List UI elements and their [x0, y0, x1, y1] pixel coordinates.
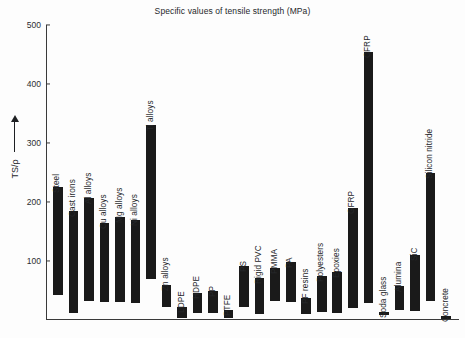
bar-mg-alloys — [115, 217, 125, 303]
y-axis-label-group: TS/ρ — [6, 120, 24, 230]
bar-label-ps: PS — [239, 261, 248, 272]
bar-label-gfrp: GFRP — [347, 191, 356, 214]
bar-cfrp — [364, 52, 374, 304]
y-axis-tick-label-500: 500 — [27, 20, 46, 30]
bar-label-rigid-pvc: Rigid PVC — [254, 245, 263, 284]
y-axis-tick-mark-300 — [46, 142, 50, 143]
bar-label-alumina: Alumina — [394, 261, 403, 291]
bar-al-alloys — [84, 198, 94, 301]
bar-pa — [286, 262, 296, 302]
bar-label-pf-resins: PF resins — [301, 268, 310, 303]
bar-label-ptfe: PTFE — [223, 295, 232, 316]
y-axis-tick-mark-100 — [46, 260, 50, 261]
bar-label-soda-glass: Soda glass — [379, 277, 388, 319]
chart-title: Specific values of tensile strength (MPa… — [0, 6, 465, 16]
bar-label-concrete: Concrete — [441, 288, 450, 322]
bar-label-cu-alloys: Cu alloys — [99, 194, 108, 229]
bar-label-cast-irons: Cast irons — [68, 179, 77, 217]
bar-label-pa: PA — [285, 258, 294, 269]
bar-label-silicon-nitride: Silicon nitride — [425, 128, 434, 178]
bar-label-polyesters: Polyesters — [316, 243, 325, 282]
bar-label-cfrp: CFRP — [363, 35, 372, 58]
bar-label-al-alloys: Al alloys — [84, 172, 93, 203]
y-axis-tick-label-100: 100 — [27, 256, 46, 266]
bar-steel — [53, 187, 63, 294]
bar-ni-alloys — [131, 220, 141, 304]
bar-gfrp — [348, 208, 358, 308]
bar-label-sic: SiC — [410, 248, 419, 262]
bar-label-epoxies: Epoxies — [332, 248, 341, 278]
bar-label-ti-alloys: Ti alloys — [146, 101, 155, 132]
y-axis-tick-label-400: 400 — [27, 79, 46, 89]
bar-label-mg-alloys: Mg alloys — [115, 187, 124, 222]
y-axis-tick-label-200: 200 — [27, 197, 46, 207]
y-axis-tick-label-300: 300 — [27, 138, 46, 148]
plot-area: 100200300400500SteelCast ironsAl alloysC… — [46, 25, 459, 320]
chart-page: Specific values of tensile strength (MPa… — [0, 0, 465, 338]
y-axis-label: TS/ρ — [10, 126, 20, 212]
bar-silicon-nitride — [426, 173, 436, 301]
y-axis-tick-mark-200 — [46, 201, 50, 202]
bar-label-steel: Steel — [52, 174, 61, 193]
bar-label-zn-alloys: Zn alloys — [161, 257, 170, 291]
y-axis-tick-mark-500 — [46, 24, 50, 25]
y-axis-tick-mark-400 — [46, 83, 50, 84]
bar-cu-alloys — [100, 223, 110, 303]
bar-label-ldpe: LDPE — [177, 291, 186, 313]
bar-label-ni-alloys: Ni alloys — [130, 194, 139, 226]
bar-cast-irons — [69, 211, 79, 313]
bar-ti-alloys — [146, 125, 156, 278]
bar-sic — [410, 255, 420, 311]
bar-label-pmma: PMMA — [270, 249, 279, 274]
bar-label-hdpe: HDPE — [192, 276, 201, 299]
bar-label-pp: PP — [208, 285, 217, 296]
